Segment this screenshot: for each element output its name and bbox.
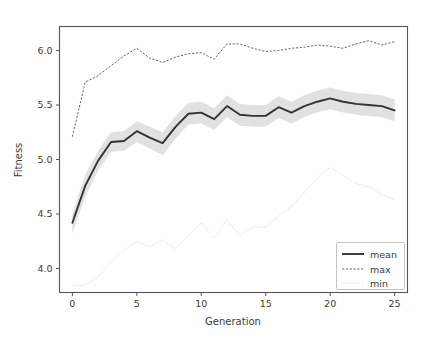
series-line-max [72,41,394,137]
x-axis-ticks: 0510152025 [69,293,400,309]
y-tick-label: 4.5 [37,208,52,219]
y-tick-label: 6.0 [37,45,52,56]
y-tick-label: 5.0 [37,154,52,165]
y-tick-label: 4.0 [37,263,52,274]
legend-label-max: max [370,264,391,275]
legend: mean max min [337,243,405,290]
x-tick-label: 10 [195,298,207,309]
x-tick-label: 25 [389,298,401,309]
legend-label-mean: mean [370,249,397,260]
legend-label-min: min [370,278,388,289]
x-tick-label: 15 [260,298,272,309]
x-tick-label: 5 [134,298,140,309]
y-tick-label: 5.5 [37,99,52,110]
x-axis-title: Generation [205,316,261,327]
y-axis-title: Fitness [13,143,24,178]
x-tick-label: 0 [69,298,75,309]
chart-plot: 0510152025 4.04.55.05.56.0 Generation Fi… [0,0,430,347]
y-axis-ticks: 4.04.55.05.56.0 [37,45,59,274]
figure-canvas: 0510152025 4.04.55.05.56.0 Generation Fi… [0,0,430,347]
x-tick-label: 20 [324,298,336,309]
